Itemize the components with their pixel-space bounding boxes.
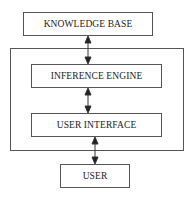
arrow-ui-user: [92, 137, 98, 164]
arrow-kb-ie: [85, 36, 91, 64]
arrow-ie-ui: [85, 88, 91, 113]
connector-arrows: [0, 0, 196, 198]
